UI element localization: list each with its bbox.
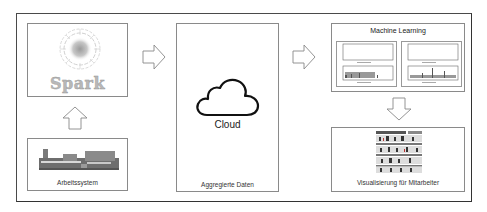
chart-right [401,41,462,87]
plot-icon [402,42,461,86]
work-system-panel: Arbeitssystem [27,138,128,191]
spark-logo-text: Spark [28,74,127,93]
cloud-panel: Cloud Aggregierte Daten [176,23,279,192]
ml-panel: Machine Learning [331,23,465,92]
arrow-right-icon [142,44,166,70]
worker-visualization-icon [376,131,422,173]
visualization-label: Visualisierung für Mitarbeiter [332,179,464,186]
visualization-panel: Visualisierung für Mitarbeiter [331,127,465,192]
plot-icon [337,42,396,86]
ml-title: Machine Learning [332,27,464,34]
arrow-right-icon [292,44,316,70]
work-system-label: Arbeitssystem [28,179,127,186]
chart-left [336,41,397,87]
arrow-down-icon [386,97,412,121]
cloud-label: Cloud [177,119,278,130]
arrow-up-icon [62,106,88,130]
cloud-icon [195,77,261,119]
spark-panel: Spark [27,23,128,97]
aggregated-data-label: Aggregierte Daten [177,181,278,188]
machine-part-icon [37,146,121,174]
spark-logo-icon [58,27,102,73]
